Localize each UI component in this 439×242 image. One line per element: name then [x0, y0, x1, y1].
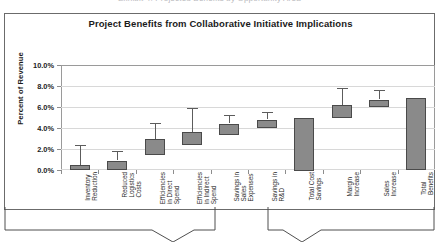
error-bar-cap	[112, 151, 123, 152]
y-axis-tick	[57, 86, 61, 87]
plot-area: 0.0%2.0%4.0%6.0%8.0%10.0%	[61, 65, 435, 170]
y-axis-tick-label: 6.0%	[37, 103, 54, 112]
chart-frame: Project Benefits from Collaborative Init…	[4, 13, 435, 210]
error-bar-cap	[262, 112, 273, 113]
error-bar-line	[379, 90, 380, 99]
error-bar-line	[80, 145, 81, 165]
error-bar-cap	[337, 88, 348, 89]
x-axis-label: TotalBenefits	[420, 172, 434, 195]
y-axis-tick-label: 2.0%	[37, 145, 54, 154]
error-bar-cap	[374, 90, 385, 91]
bar	[369, 100, 389, 107]
y-axis-tick	[57, 107, 61, 108]
total-benefits-funnel	[268, 207, 434, 242]
clipped-header-text: Exhibit 4: Projected Benefits by Opportu…	[0, 0, 439, 9]
x-axis-label: Savings inSalesExpenses	[233, 172, 255, 202]
error-bar-line	[267, 112, 268, 119]
y-axis-tick	[57, 128, 61, 129]
error-bar-line	[117, 151, 118, 160]
bar	[332, 105, 352, 118]
bar	[182, 132, 202, 145]
y-axis-tick-label: 0.0%	[37, 166, 54, 175]
cost-savings-funnel	[5, 207, 215, 242]
error-bar-line	[155, 123, 156, 139]
clipped-header-label: Exhibit 4: Projected Benefits by Opportu…	[118, 0, 301, 3]
y-axis-tick	[57, 149, 61, 150]
bar	[257, 120, 277, 128]
error-bar-line	[229, 115, 230, 123]
error-bar-cap	[75, 145, 86, 146]
bar	[219, 124, 239, 135]
x-axis-label: SalesIncrease	[383, 172, 397, 197]
error-bar-cap	[150, 123, 161, 124]
plot-right-border	[434, 65, 435, 170]
error-bar-cap	[187, 108, 198, 109]
y-axis-line	[61, 65, 62, 170]
gridline	[61, 65, 435, 66]
bar	[294, 118, 314, 171]
y-axis-title: Percent of Revenue	[16, 34, 25, 144]
x-axis-label: Efficienciesin IndirectSpend	[196, 172, 218, 204]
gridline	[61, 149, 435, 150]
x-axis-label: Savings inR&D	[271, 172, 285, 202]
bar	[107, 161, 127, 170]
chart-title: Project Benefits from Collaborative Init…	[5, 18, 436, 29]
x-axis-label: Total CostSavings	[308, 172, 322, 200]
chart-screenshot: Exhibit 4: Projected Benefits by Opportu…	[0, 0, 439, 242]
x-axis-label: MarginIncrease	[346, 172, 360, 197]
funnel-callouts	[0, 206, 439, 242]
error-bar-line	[192, 108, 193, 132]
bar	[406, 98, 426, 170]
x-axis-label: ReducedLogisticsCosts	[121, 172, 143, 198]
error-bar-line	[342, 88, 343, 105]
y-axis-tick-label: 4.0%	[37, 124, 54, 133]
funnel-callouts-svg	[0, 206, 439, 242]
gridline	[61, 86, 435, 87]
gridline	[61, 128, 435, 129]
y-axis-tick-label: 10.0%	[33, 61, 54, 70]
x-axis-label: InventoryReduction	[84, 172, 98, 201]
y-axis-tick-label: 8.0%	[37, 82, 54, 91]
y-axis-tick	[57, 65, 61, 66]
bar	[70, 165, 90, 170]
error-bar-cap	[224, 115, 235, 116]
gridline	[61, 107, 435, 108]
bar	[145, 139, 165, 155]
x-axis-label: Efficienciesin DirectSpend	[159, 172, 181, 204]
